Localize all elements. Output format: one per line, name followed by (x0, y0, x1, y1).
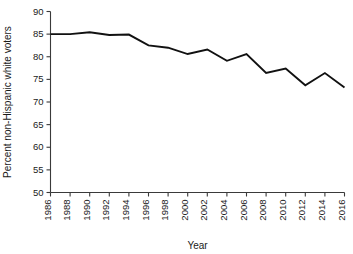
y-tick-label-90: 90 (33, 6, 44, 17)
x-tick-label-1998: 1998 (159, 200, 170, 221)
x-tick-label-2012: 2012 (296, 200, 307, 221)
x-tick-label-2004: 2004 (218, 200, 229, 221)
x-axis-title: Year (187, 240, 208, 251)
y-tick-label-80: 80 (33, 51, 44, 62)
x-tick-label-1990: 1990 (81, 200, 92, 221)
x-tick-label-1994: 1994 (120, 200, 131, 221)
y-tick-label-55: 55 (33, 164, 44, 175)
chart-container: 5055606570758085901986198819901992199419… (0, 0, 353, 254)
y-axis-title: Percent non-Hispanic white voters (2, 26, 13, 178)
x-tick-label-2014: 2014 (316, 200, 327, 221)
x-tick-label-1992: 1992 (100, 200, 111, 221)
x-tick-label-2008: 2008 (257, 200, 268, 221)
x-tick-label-2016: 2016 (336, 200, 347, 221)
x-tick-label-2000: 2000 (179, 200, 190, 221)
x-tick-label-1988: 1988 (61, 200, 72, 221)
x-tick-label-2002: 2002 (198, 200, 209, 221)
x-tick-label-2010: 2010 (277, 200, 288, 221)
x-tick-label-1986: 1986 (42, 200, 53, 221)
x-tick-label-1996: 1996 (140, 200, 151, 221)
y-tick-label-70: 70 (33, 96, 44, 107)
y-tick-label-50: 50 (33, 187, 44, 198)
y-tick-label-65: 65 (33, 119, 44, 130)
y-tick-label-85: 85 (33, 28, 44, 39)
x-tick-label-2006: 2006 (238, 200, 249, 221)
y-tick-label-75: 75 (33, 73, 44, 84)
data-series-line (51, 32, 345, 87)
line-chart: 5055606570758085901986198819901992199419… (0, 0, 353, 254)
y-tick-label-60: 60 (33, 141, 44, 152)
